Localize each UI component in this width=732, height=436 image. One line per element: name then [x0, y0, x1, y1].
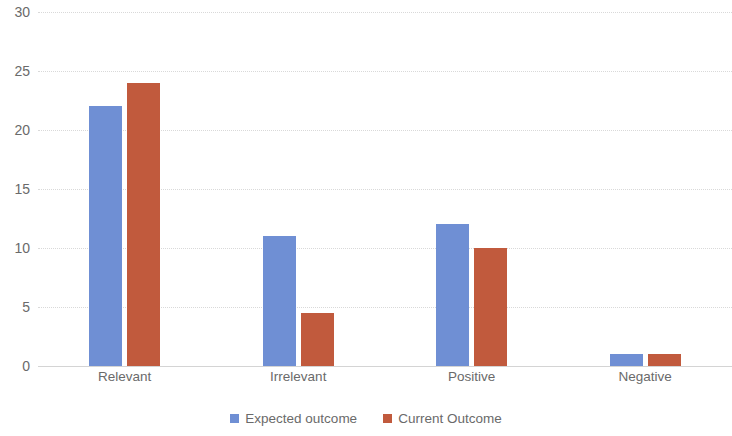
y-axis-tick-label: 15	[0, 182, 30, 196]
chart-legend: Expected outcomeCurrent Outcome	[0, 412, 732, 426]
legend-swatch-icon	[230, 414, 239, 423]
legend-label: Current Outcome	[398, 412, 502, 426]
bar-group-negative	[559, 12, 732, 366]
y-axis-tick-label: 0	[0, 359, 30, 373]
bar[interactable]	[127, 83, 160, 366]
y-axis-tick-label: 20	[0, 123, 30, 137]
y-axis-tick-label: 10	[0, 241, 30, 255]
x-axis-category-label: Positive	[385, 370, 559, 384]
x-axis-labels: RelevantIrrelevantPositiveNegative	[38, 370, 732, 384]
x-axis-category-label: Irrelevant	[212, 370, 386, 384]
y-axis-tick-label: 30	[0, 5, 30, 19]
bar[interactable]	[648, 354, 681, 366]
bars	[385, 12, 559, 366]
legend-item[interactable]: Current Outcome	[383, 412, 502, 426]
bar[interactable]	[610, 354, 643, 366]
x-axis-category-label: Relevant	[38, 370, 212, 384]
bar[interactable]	[436, 224, 469, 366]
bar[interactable]	[474, 248, 507, 366]
bar[interactable]	[89, 106, 122, 366]
bar[interactable]	[301, 313, 334, 366]
y-axis-tick-label: 25	[0, 64, 30, 78]
bars	[212, 12, 386, 366]
legend-item[interactable]: Expected outcome	[230, 412, 357, 426]
bar-groups	[38, 12, 732, 366]
bar-chart: 051015202530 RelevantIrrelevantPositiveN…	[0, 0, 732, 436]
bar-group-positive	[385, 12, 559, 366]
y-axis-tick-label: 5	[0, 300, 30, 314]
bars	[38, 12, 212, 366]
x-axis-category-label: Negative	[559, 370, 732, 384]
legend-label: Expected outcome	[245, 412, 357, 426]
bars	[559, 12, 732, 366]
legend-swatch-icon	[383, 414, 392, 423]
bar-group-irrelevant	[212, 12, 386, 366]
gridline-0	[38, 366, 732, 367]
bar[interactable]	[263, 236, 296, 366]
bar-group-relevant	[38, 12, 212, 366]
